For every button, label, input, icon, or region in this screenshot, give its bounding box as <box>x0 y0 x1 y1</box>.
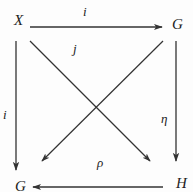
node-h: H <box>176 176 187 191</box>
label-left-i: i <box>3 108 7 121</box>
label-top-i: i <box>83 5 87 18</box>
node-g-bottom-left: G <box>15 179 26 192</box>
label-bottom-rho: ρ <box>97 156 103 169</box>
node-x: X <box>14 13 23 28</box>
arrow-diagonal-x-to-h <box>30 41 150 161</box>
node-g-top-right: G <box>172 17 183 32</box>
arrow-diagonal-g-to-g <box>42 41 163 161</box>
commutative-diagram: X G G H i i j η ρ <box>0 0 193 192</box>
label-right-eta: η <box>161 112 167 125</box>
label-diagonal-j: j <box>73 42 77 55</box>
